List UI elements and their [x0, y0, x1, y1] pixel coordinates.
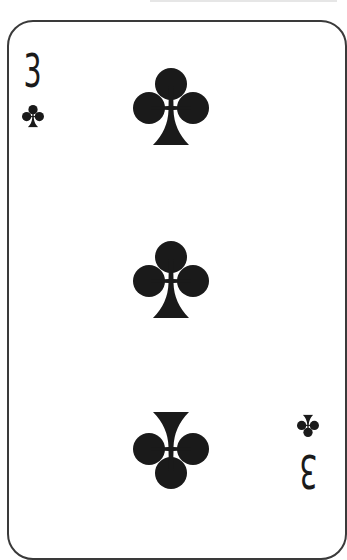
club-icon: [133, 411, 209, 491]
club-icon: [133, 66, 209, 146]
rank-label: 3: [299, 446, 317, 496]
index-top-left: 3: [18, 46, 48, 128]
background-strip: [150, 0, 337, 2]
index-bottom-right: 3: [293, 414, 323, 496]
card-edge-fade: [333, 40, 337, 520]
rank-label: 3: [24, 46, 42, 96]
club-icon: [297, 414, 319, 438]
club-icon: [133, 239, 209, 319]
club-icon: [22, 104, 44, 128]
